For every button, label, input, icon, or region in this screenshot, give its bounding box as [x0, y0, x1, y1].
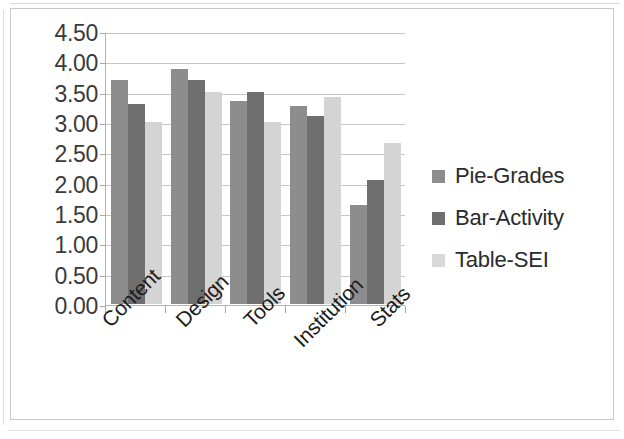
bar-group — [286, 33, 346, 304]
legend-item[interactable]: Table-SEI — [432, 239, 602, 281]
bar — [264, 122, 281, 304]
bar-groups — [107, 33, 405, 304]
x-axis-tick — [285, 306, 286, 313]
x-axis-tick — [225, 306, 226, 313]
y-axis-tick — [100, 154, 106, 155]
scan-edge-left — [3, 10, 4, 425]
bar-group — [167, 33, 227, 304]
legend-label: Pie-Grades — [455, 163, 564, 189]
x-axis-tick — [165, 306, 166, 313]
bar — [230, 101, 247, 304]
y-axis-tick-label: 4.00 — [54, 50, 98, 77]
legend-swatch-icon — [432, 170, 445, 183]
y-axis-tick-label: 0.00 — [54, 293, 98, 320]
legend-swatch-icon — [432, 254, 445, 267]
y-axis-tick — [100, 185, 106, 186]
y-axis-tick-label: 2.50 — [54, 141, 98, 168]
bar — [290, 106, 307, 304]
bar-group — [107, 33, 167, 304]
legend-label: Bar-Activity — [455, 205, 564, 231]
y-axis-tick — [100, 94, 106, 95]
y-axis-tick-label: 4.50 — [54, 20, 98, 47]
bar — [188, 80, 205, 304]
bar — [247, 92, 264, 304]
legend-swatch-icon — [432, 212, 445, 225]
y-axis-tick — [100, 276, 106, 277]
bar — [324, 97, 341, 304]
y-axis-tick — [100, 245, 106, 246]
y-axis-tick — [100, 33, 106, 34]
legend-item[interactable]: Bar-Activity — [432, 197, 602, 239]
legend-label: Table-SEI — [455, 247, 549, 273]
y-axis-tick-label: 0.50 — [54, 262, 98, 289]
x-axis-labels: ContentDesignToolsInstitutionStats — [105, 313, 425, 403]
bar-group — [226, 33, 286, 304]
y-axis-tick-label: 1.50 — [54, 202, 98, 229]
bar-group — [345, 33, 405, 304]
bar — [307, 116, 324, 304]
y-axis-tick-label: 1.00 — [54, 232, 98, 259]
y-axis-tick — [100, 63, 106, 64]
legend-item[interactable]: Pie-Grades — [432, 155, 602, 197]
y-axis-labels: 4.504.003.503.002.502.001.501.000.500.00 — [18, 33, 98, 306]
y-axis-tick-label: 3.50 — [54, 80, 98, 107]
chart-legend: Pie-GradesBar-ActivityTable-SEI — [432, 155, 602, 281]
y-axis-tick — [100, 215, 106, 216]
bar — [384, 143, 401, 304]
chart-screenshot: 4.504.003.503.002.502.001.501.000.500.00… — [0, 0, 624, 439]
y-axis-tick — [100, 124, 106, 125]
bar — [171, 69, 188, 304]
y-axis-tick-label: 3.00 — [54, 111, 98, 138]
bar — [111, 80, 128, 304]
scan-edge-top — [10, 3, 620, 4]
y-axis-tick-label: 2.00 — [54, 171, 98, 198]
bar — [367, 180, 384, 304]
scan-edge-bottom — [8, 430, 620, 431]
